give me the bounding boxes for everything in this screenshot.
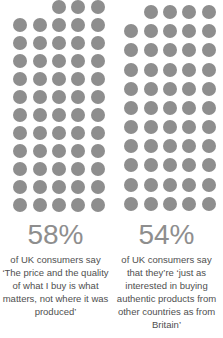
dot-icon [13,108,27,122]
dot-grid-right [118,0,216,216]
dot-icon [91,162,105,176]
dot-icon [124,63,138,77]
dot-icon [71,0,85,14]
dot-icon [202,139,216,153]
dot-row [118,43,216,62]
dot-icon [163,101,177,115]
dot-row [118,197,216,216]
dot-icon [202,63,216,77]
dot-icon [91,72,105,86]
dot-row [7,90,105,108]
dot-icon [13,54,27,68]
dot-icon [163,63,177,77]
dot-icon [71,90,85,104]
dot-icon [52,162,66,176]
dot-icon [91,180,105,194]
dot-icon [33,108,47,122]
dot-icon [52,54,66,68]
dot-row [118,101,216,120]
dot-icon [202,197,216,211]
dot-icon [202,82,216,96]
dot-icon [163,5,177,19]
dot-icon [163,197,177,211]
dot-icon [52,90,66,104]
dot-icon [163,43,177,57]
dot-icon [124,158,138,172]
dot-icon [71,180,85,194]
dot-icon [33,162,47,176]
percent-value-left: 58% [27,221,83,249]
dot-icon [33,54,47,68]
dot-icon [52,18,66,32]
dot-icon [202,120,216,134]
dot-row [7,0,105,18]
dot-icon [52,198,66,212]
dot-row [118,63,216,82]
dot-icon [71,108,85,122]
stat-column-right: 54% of UK consumers say that they’re ‘ju… [111,0,222,331]
dot-icon [33,198,47,212]
dot-row [118,158,216,177]
dot-icon [202,43,216,57]
dot-icon [124,139,138,153]
dot-icon [124,120,138,134]
dot-row [7,72,105,90]
dot-icon [13,126,27,140]
dot-row [118,139,216,158]
dot-icon [13,180,27,194]
dot-icon [144,120,158,134]
dot-icon [182,139,196,153]
dot-icon [71,162,85,176]
dot-icon [202,158,216,172]
dot-icon [91,144,105,158]
dot-icon [182,24,196,38]
dot-icon [144,178,158,192]
dot-icon [33,126,47,140]
dot-icon [202,178,216,192]
dot-icon [202,24,216,38]
dot-icon [71,36,85,50]
dot-icon [71,72,85,86]
dot-row [7,144,105,162]
dot-icon [182,43,196,57]
dot-icon [33,72,47,86]
dot-row [118,178,216,197]
dot-row [7,36,105,54]
dot-icon [52,0,66,14]
dot-icon [182,63,196,77]
dot-icon [182,5,196,19]
dot-icon [71,54,85,68]
dot-icon [52,126,66,140]
dot-icon [71,18,85,32]
dot-icon [163,178,177,192]
dot-icon [13,144,27,158]
dot-icon [182,82,196,96]
dot-icon [124,43,138,57]
dot-icon [144,82,158,96]
dot-icon [163,139,177,153]
dot-icon [52,36,66,50]
dot-icon [124,197,138,211]
dot-icon [13,18,27,32]
dot-icon [52,144,66,158]
dot-icon [13,90,27,104]
dot-icon [91,126,105,140]
dot-icon [33,180,47,194]
dot-row [118,5,216,24]
dot-icon [182,178,196,192]
dot-row [118,120,216,139]
dot-icon [144,5,158,19]
dot-icon [182,101,196,115]
dot-icon [144,158,158,172]
dot-icon [144,197,158,211]
dot-icon [52,180,66,194]
caption-left: of UK consumers say ‘The price and the q… [2,253,109,318]
dot-icon [33,36,47,50]
dot-icon [91,90,105,104]
dot-icon [52,108,66,122]
dot-icon [71,198,85,212]
dot-icon [182,197,196,211]
dot-icon [33,90,47,104]
dot-icon [163,158,177,172]
dot-icon [124,178,138,192]
